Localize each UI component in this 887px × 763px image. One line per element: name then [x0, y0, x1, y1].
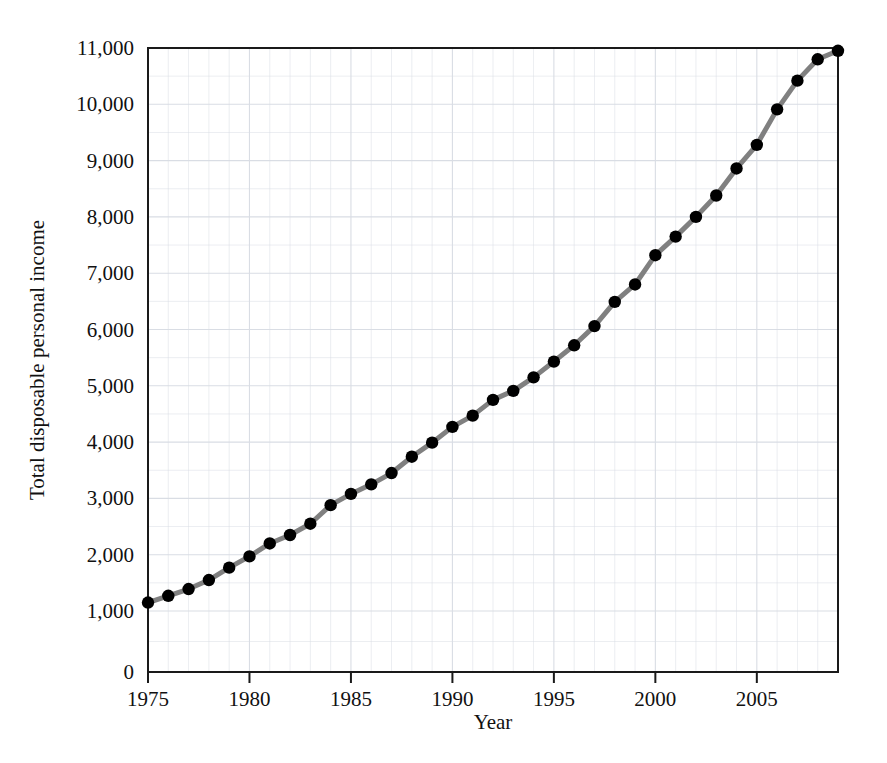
y-tick-label: 0 [124, 660, 135, 684]
x-tick-label: 1985 [330, 687, 372, 711]
y-axis-tick-labels: 01,0002,0003,0004,0005,0006,0007,0008,00… [76, 36, 134, 684]
y-tick-label: 5,000 [87, 374, 134, 398]
y-tick-label: 8,000 [87, 205, 134, 229]
x-axis-ticks [148, 672, 757, 683]
x-tick-label: 1990 [431, 687, 473, 711]
x-tick-label: 2005 [736, 687, 778, 711]
y-tick-label: 4,000 [87, 430, 134, 454]
y-tick-label: 2,000 [87, 543, 134, 567]
x-tick-label: 1995 [533, 687, 575, 711]
y-tick-label: 11,000 [77, 36, 134, 60]
x-tick-label: 1975 [127, 687, 169, 711]
y-tick-label: 9,000 [87, 149, 134, 173]
x-axis-title: Year [474, 710, 513, 734]
y-tick-label: 6,000 [87, 318, 134, 342]
line-chart: 1975198019851990199520002005 01,0002,000… [0, 0, 887, 763]
y-tick-label: 10,000 [76, 92, 134, 116]
y-tick-label: 1,000 [87, 599, 134, 623]
chart-grid [148, 48, 838, 672]
chart-figure: 1975198019851990199520002005 01,0002,000… [0, 0, 887, 763]
y-axis-title: Total disposable personal income [25, 220, 49, 500]
x-axis-tick-labels: 1975198019851990199520002005 [127, 687, 778, 711]
y-tick-label: 3,000 [87, 486, 134, 510]
x-tick-label: 2000 [634, 687, 676, 711]
x-tick-label: 1980 [228, 687, 270, 711]
y-tick-label: 7,000 [87, 261, 134, 285]
